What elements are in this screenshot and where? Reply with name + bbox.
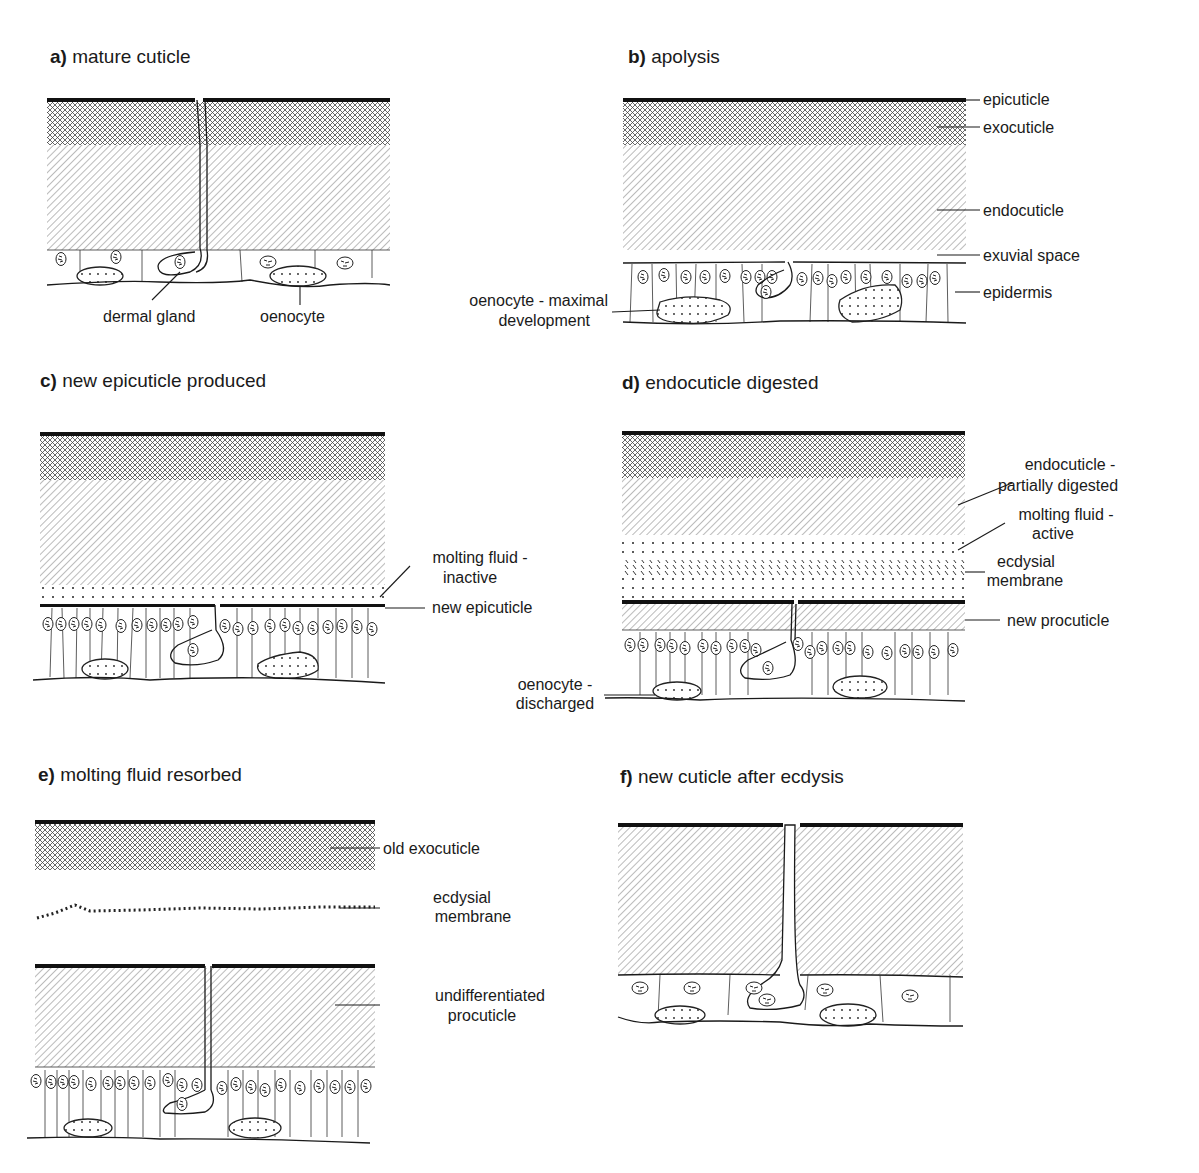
basement-membrane — [605, 698, 965, 701]
panel-f: f) new cuticle after ecdysis — [618, 766, 963, 1026]
panel-f-title: f) new cuticle after ecdysis — [620, 766, 844, 787]
exocuticle-layer — [40, 436, 385, 480]
leader-line — [152, 272, 180, 300]
label-ecdysial: ecdysial — [433, 889, 491, 906]
label-dermal-gland: dermal gland — [103, 308, 196, 325]
panel-d-title: d) endocuticle digested — [622, 372, 818, 393]
label-epicuticle: epicuticle — [983, 91, 1050, 108]
new-epicuticle — [35, 964, 205, 968]
oenocyte — [833, 676, 887, 698]
label-procuticle: procuticle — [448, 1007, 517, 1024]
panel-c-title: c) new epicuticle produced — [40, 370, 266, 391]
label-old-exocuticle: old exocuticle — [383, 840, 480, 857]
label-new-epicuticle: new epicuticle — [432, 599, 533, 616]
dermal-gland — [163, 1090, 213, 1114]
label-exocuticle: exocuticle — [983, 119, 1054, 136]
new-epicuticle — [220, 604, 385, 607]
oenocyte — [270, 266, 326, 286]
ecdysial-membrane — [622, 560, 965, 577]
panel-a-title: a) mature cuticle — [50, 46, 190, 67]
epicuticle-line — [203, 98, 390, 102]
label-molting-fluid: molting fluid - — [432, 549, 527, 566]
exocuticle-layer — [47, 102, 390, 145]
oenocyte — [229, 1118, 281, 1138]
label-membrane: membrane — [987, 572, 1064, 589]
label-oenocyte: oenocyte — [260, 308, 325, 325]
panel-d: d) endocuticle digested — [516, 372, 1118, 712]
label-ecdysial: ecdysial — [997, 553, 1055, 570]
oenocyte — [82, 659, 128, 679]
epicuticle-line — [800, 823, 963, 827]
label-inactive: inactive — [443, 569, 497, 586]
panel-e: e) molting fluid resorbed — [27, 764, 545, 1143]
panel-e-title: e) molting fluid resorbed — [38, 764, 242, 785]
label-endocuticle: endocuticle — [983, 202, 1064, 219]
epicuticle-line — [623, 98, 966, 102]
oenocyte — [820, 1004, 876, 1026]
new-epicuticle — [622, 600, 794, 604]
oenocyte-maximal — [839, 285, 902, 322]
new-epicuticle — [798, 600, 965, 604]
oenocyte — [64, 1119, 112, 1137]
label-partially-digested: partially digested — [998, 477, 1118, 494]
label-epidermis: epidermis — [983, 284, 1052, 301]
molting-diagram: a) mature cuticle dermal gland oenocyte … — [0, 0, 1199, 1173]
dermal-gland — [171, 605, 224, 665]
molting-fluid-inactive — [40, 585, 385, 605]
label-oenocyte-maximal: oenocyte - maximal — [469, 292, 608, 309]
label-molting-fluid-active: molting fluid - — [1018, 506, 1113, 523]
new-epicuticle — [212, 964, 375, 968]
basement-membrane — [27, 1137, 370, 1143]
label-membrane: membrane — [435, 908, 512, 925]
ecdysial-membrane — [37, 905, 375, 918]
epicuticle-line — [40, 432, 385, 436]
panel-a: a) mature cuticle dermal gland oenocyte — [47, 46, 390, 325]
epidermis-top — [623, 262, 785, 263]
label-active: active — [1032, 525, 1074, 542]
oenocyte-maximal — [657, 297, 730, 323]
molting-fluid-active — [622, 577, 965, 600]
panel-b-title: b) apolysis — [628, 46, 720, 67]
new-epicuticle — [40, 604, 215, 607]
old-exocuticle — [35, 824, 375, 870]
endocuticle-layer — [40, 480, 385, 585]
new-procuticle — [622, 604, 965, 630]
exocuticle-layer — [623, 102, 966, 145]
label-discharged: discharged — [516, 695, 594, 712]
label-exuvial-space: exuvial space — [983, 247, 1080, 264]
epicuticle-line — [618, 823, 783, 827]
endocuticle-partially-digested — [622, 478, 965, 535]
endocuticle-layer — [623, 145, 966, 250]
epicuticle-line — [622, 431, 965, 435]
oenocyte-discharged — [653, 682, 701, 700]
endocuticle-layer — [47, 145, 390, 250]
epicuticle-line — [47, 98, 195, 102]
oenocyte — [258, 652, 319, 678]
label-new-procuticle: new procuticle — [1007, 612, 1109, 629]
label-undifferentiated: undifferentiated — [435, 987, 545, 1004]
label-oenocyte-dash: oenocyte - — [518, 676, 593, 693]
molting-fluid-active — [622, 535, 965, 560]
label-endocuticle-partially: endocuticle - — [1025, 456, 1116, 473]
basement-membrane — [33, 678, 385, 684]
exocuticle-layer — [622, 435, 965, 478]
panel-b: b) apolysis — [469, 46, 1080, 329]
panel-c: c) new epicuticle produced — [33, 370, 533, 683]
label-development: development — [498, 312, 590, 329]
old-epicuticle — [35, 820, 375, 824]
